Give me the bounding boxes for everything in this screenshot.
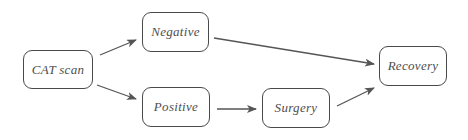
arrow-negative-to-recovery bbox=[214, 38, 374, 64]
node-cat-scan: CAT scan bbox=[23, 50, 93, 89]
node-label: Negative bbox=[151, 24, 200, 40]
node-label: Recovery bbox=[388, 58, 439, 74]
node-surgery: Surgery bbox=[262, 88, 330, 128]
node-positive: Positive bbox=[142, 87, 210, 127]
arrow-cat-scan-to-positive bbox=[97, 85, 136, 99]
arrow-cat-scan-to-negative bbox=[100, 40, 136, 55]
node-label: CAT scan bbox=[32, 62, 85, 78]
flowchart-canvas: CAT scan Negative Positive Surgery Recov… bbox=[0, 0, 468, 140]
arrow-surgery-to-recovery bbox=[337, 88, 374, 106]
node-recovery: Recovery bbox=[379, 46, 447, 86]
node-negative: Negative bbox=[142, 12, 209, 52]
node-label: Surgery bbox=[275, 100, 318, 116]
node-label: Positive bbox=[154, 99, 198, 115]
